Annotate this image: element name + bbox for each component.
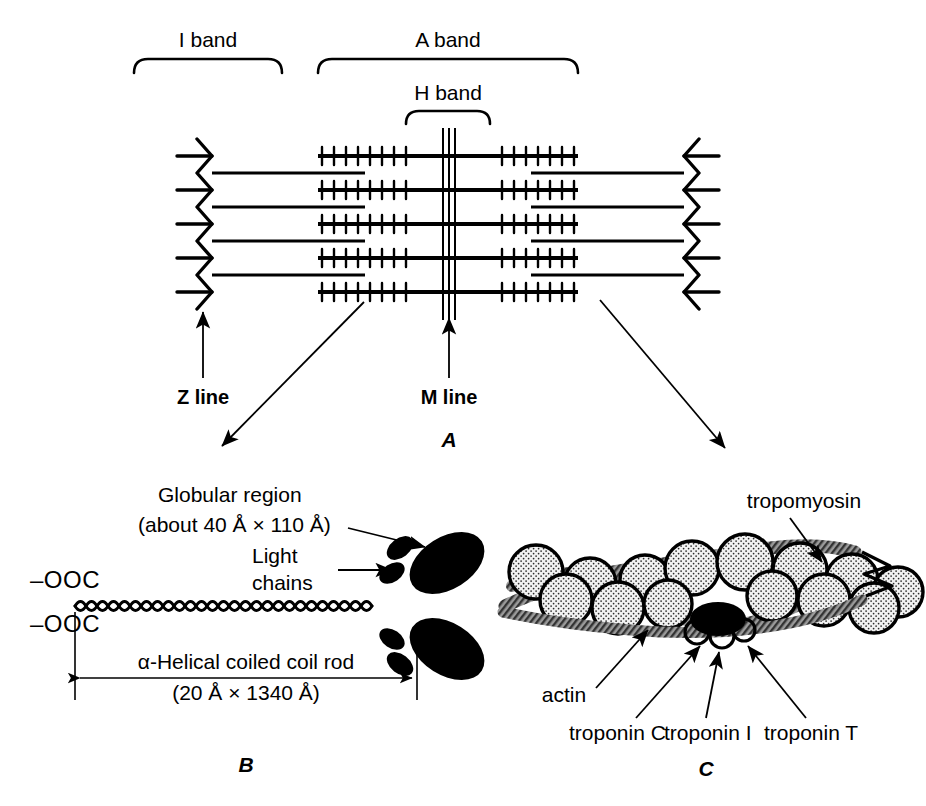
rod-label-line2: (20 Å × 1340 Å) xyxy=(172,681,320,704)
i-band-label: I band xyxy=(179,28,237,51)
actin-globule xyxy=(644,580,692,628)
rod-label-line1: α-Helical coiled coil rod xyxy=(138,650,354,673)
z-line-label: Z line xyxy=(177,386,229,408)
troponin-c-label: troponin C xyxy=(569,721,666,744)
globular-region-label-line2: (about 40 Å × 110 Å) xyxy=(138,513,331,536)
actin-globule xyxy=(747,571,797,621)
a-band-label: A band xyxy=(415,28,480,51)
panel-c-label: C xyxy=(698,757,714,780)
light-chains-label-line2: chains xyxy=(252,571,313,594)
actin-label: actin xyxy=(542,683,586,706)
c-terminus-upper-label: –OOC xyxy=(30,566,100,593)
tropomyosin-label: tropomyosin xyxy=(747,489,861,512)
light-chains-label-line1: Light xyxy=(252,544,298,567)
panel-b-label: B xyxy=(238,753,253,776)
figure-root: I band A band H band xyxy=(0,0,926,806)
globular-region-label-line1: Globular region xyxy=(158,483,302,506)
sarcomere-figure: I band A band H band xyxy=(0,0,926,806)
troponin-t-label: troponin T xyxy=(764,721,858,744)
c-terminus-lower-label: –OOC xyxy=(30,610,100,637)
h-band-label: H band xyxy=(414,81,482,104)
troponin-i-label: troponin I xyxy=(664,721,752,744)
m-line-label: M line xyxy=(421,386,478,408)
panel-a-label: A xyxy=(440,428,456,451)
